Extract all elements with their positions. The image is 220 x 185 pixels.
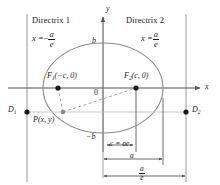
directrix-left-title: Directrix 1 xyxy=(32,16,70,25)
directrix-point-left-subscript: 1 xyxy=(14,109,17,115)
ellipse-directrix-figure: Directrix 1 x =− a e Directrix 2 x = a e… xyxy=(0,0,220,185)
focal-radius-p-f1 xyxy=(58,88,63,112)
directrix-right-eq-lhs: x = xyxy=(141,33,153,43)
focus-left-label: F1(−c, 0) xyxy=(47,72,77,81)
directrix-right-fraction: a e xyxy=(153,30,159,48)
focus-left-dot xyxy=(55,85,60,90)
semi-minor-bottom-label: −b xyxy=(86,133,95,141)
directrix-right-fraction-denominator: e xyxy=(153,40,159,49)
dimension-fraction-denominator: e xyxy=(139,174,145,182)
x-axis-label: x xyxy=(205,83,209,91)
directrix-right-equation: x = a e xyxy=(141,30,159,48)
focus-right-dot xyxy=(133,85,138,90)
focus-right-label: F2(c, 0) xyxy=(124,72,149,81)
directrix-point-left-label: D1 xyxy=(8,106,17,115)
dimension-label-a-over-e: a e xyxy=(139,165,145,181)
directrix-left-fraction: a e xyxy=(48,30,54,48)
figure-canvas xyxy=(0,0,220,185)
focus-right-coords: (c, 0) xyxy=(132,71,149,80)
point-p-label: P(x, y) xyxy=(33,116,54,124)
directrix-point-right-subscript: 2 xyxy=(198,109,201,115)
directrix-point-left-dot xyxy=(24,109,29,114)
dimension-label-c: c = ae xyxy=(110,140,129,148)
origin-label: 0 xyxy=(94,89,98,97)
point-p-dot xyxy=(61,110,66,115)
semi-minor-top-label: b xyxy=(92,37,96,45)
focus-left-coords: (−c, 0) xyxy=(55,71,77,80)
directrix-point-right-dot xyxy=(183,109,188,114)
directrix-left-fraction-denominator: e xyxy=(48,40,54,49)
y-axis-label: y xyxy=(106,5,110,13)
dimension-fraction-a-over-e: a e xyxy=(139,165,145,181)
focal-radius-p-f2 xyxy=(63,88,136,112)
directrix-point-right-label: D2 xyxy=(192,106,201,115)
directrix-left-equation: x =− a e xyxy=(32,30,55,48)
directrix-right-title: Directrix 2 xyxy=(126,16,164,25)
point-p-coords: (x, y) xyxy=(38,115,54,124)
dimension-label-a: a xyxy=(130,152,134,160)
directrix-left-eq-lhs: x = xyxy=(32,33,44,43)
